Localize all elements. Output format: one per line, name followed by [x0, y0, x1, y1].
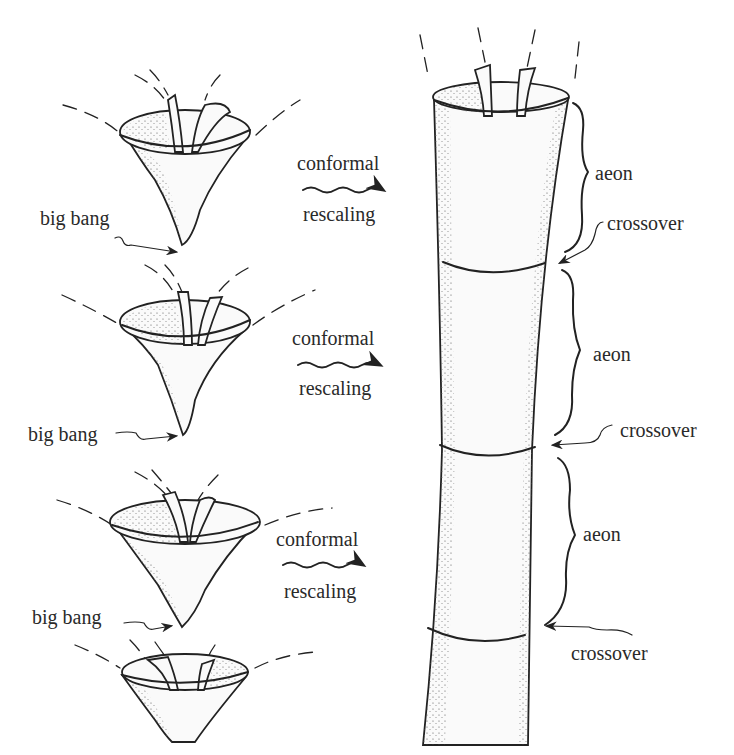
big-bang-arrow-1 — [115, 237, 176, 252]
crossover-arrow-2 — [553, 425, 612, 445]
crossover-label-1: crossover — [607, 213, 684, 233]
rescaling-label-2: rescaling — [299, 378, 371, 398]
big-bang-arrow-3 — [124, 622, 171, 629]
aeon-brace-1 — [565, 103, 588, 252]
conformal-label-2: conformal — [292, 328, 374, 348]
crossover-arrow-3 — [547, 626, 632, 635]
big-bang-label-3: big bang — [32, 607, 101, 627]
conformal-label-1: conformal — [297, 153, 379, 173]
cone-4 — [75, 640, 315, 742]
cone-2 — [62, 265, 315, 435]
conformal-label-3: conformal — [276, 529, 358, 549]
rescaling-arrow-3 — [283, 563, 363, 568]
rescaling-arrow-1 — [303, 188, 383, 193]
aeon-cylinder — [420, 28, 579, 745]
aeon-label-1: aeon — [595, 163, 633, 183]
aeon-brace-2 — [555, 270, 580, 435]
aeon-brace-3 — [545, 458, 575, 625]
crossover-label-3: crossover — [571, 643, 648, 663]
rescaling-label-1: rescaling — [303, 204, 375, 224]
big-bang-arrow-2 — [116, 432, 176, 439]
crossover-label-2: crossover — [620, 420, 697, 440]
aeon-label-3: aeon — [583, 524, 621, 544]
big-bang-label-2: big bang — [28, 424, 97, 444]
rescaling-arrow-2 — [298, 363, 380, 368]
aeon-label-2: aeon — [593, 344, 631, 364]
big-bang-label-1: big bang — [40, 208, 109, 228]
rescaling-label-3: rescaling — [284, 581, 356, 601]
